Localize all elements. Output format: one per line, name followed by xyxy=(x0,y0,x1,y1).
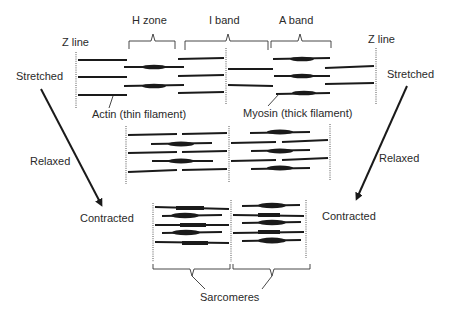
z-line-label-left: Z line xyxy=(62,37,89,48)
sarcomeres-label: Sarcomeres xyxy=(200,292,259,303)
myosin-head-region xyxy=(142,65,166,70)
a-band-bracket xyxy=(271,34,331,48)
actin-filament xyxy=(182,169,227,170)
actin-filament xyxy=(178,92,224,93)
myosin-head-region xyxy=(142,84,166,89)
actin-filament xyxy=(128,170,177,172)
myosin-head-region xyxy=(258,220,286,226)
actin-filament xyxy=(231,142,276,143)
sarcomere-pointer xyxy=(192,276,205,289)
a-band-label: A band xyxy=(279,15,313,26)
myosin-head-region xyxy=(168,142,194,147)
myosin-head-region xyxy=(258,230,280,234)
i-band-label: I band xyxy=(209,15,240,26)
actin-filament xyxy=(178,75,224,76)
relaxed-label-right: Relaxed xyxy=(379,153,419,164)
myosin-head-region xyxy=(180,223,206,227)
arrow-stretched-to-contracted-right xyxy=(357,86,407,198)
actin-filament xyxy=(325,66,374,68)
myosin-head-region xyxy=(267,130,293,135)
myosin-head-region xyxy=(290,57,314,62)
arrow-stretched-to-contracted-left xyxy=(41,89,101,204)
actin-filament xyxy=(228,85,273,86)
myosin-head-region xyxy=(176,206,204,210)
sarcomere-bracket-left xyxy=(153,264,230,276)
myosin-head-region xyxy=(172,230,200,236)
h-zone-bracket xyxy=(129,34,175,49)
myosin-head-region xyxy=(258,213,280,217)
actin-filament xyxy=(182,151,227,152)
myosin-label: Myosin (thick filament) xyxy=(243,108,352,119)
myosin-head-region xyxy=(290,74,314,79)
actin-filament xyxy=(178,58,224,59)
myosin-head-region xyxy=(258,238,286,244)
myosin-pointer xyxy=(268,94,279,106)
myosin-head-region xyxy=(182,241,208,245)
myosin-head-region xyxy=(168,159,194,164)
stretched-label-left: Stretched xyxy=(16,71,63,82)
contracted-label-left: Contracted xyxy=(80,213,134,224)
actin-filament xyxy=(231,160,276,161)
myosin-head-region xyxy=(267,149,293,154)
contracted-sarcomeres xyxy=(153,200,310,289)
myosin-head-region xyxy=(258,203,286,209)
actin-filament xyxy=(282,158,328,160)
myosin-head-region xyxy=(267,166,293,171)
actin-pointer xyxy=(109,96,113,108)
z-line-label-right: Z line xyxy=(368,34,395,45)
actin-filament xyxy=(182,133,227,134)
h-zone-label: H zone xyxy=(132,15,167,26)
relaxed-sarcomeres xyxy=(126,124,330,184)
myosin-head-region xyxy=(292,91,316,96)
myosin-head-region xyxy=(171,213,199,219)
stretched-sarcomeres xyxy=(76,34,376,108)
actin-label: Actin (thin filament) xyxy=(92,109,186,120)
actin-filament xyxy=(128,152,177,153)
sarcomere-bracket-right xyxy=(233,264,310,276)
relaxed-label-left: Relaxed xyxy=(30,156,70,167)
actin-filament xyxy=(282,140,328,142)
stretched-label-right: Stretched xyxy=(387,69,434,80)
sarcomere-pointer xyxy=(262,276,272,289)
actin-filament xyxy=(128,134,177,135)
contracted-label-right: Contracted xyxy=(322,211,376,222)
actin-filament xyxy=(325,83,374,84)
i-band-bracket xyxy=(185,34,268,50)
